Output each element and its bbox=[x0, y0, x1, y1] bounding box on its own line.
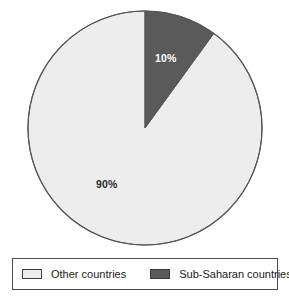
legend-swatch-sub-saharan-countries bbox=[150, 269, 170, 279]
legend-swatch-other-countries bbox=[22, 269, 42, 279]
pie-chart-figure: 10% 90% Other countries Sub-Saharan coun… bbox=[0, 0, 289, 296]
pie-plot-area: 10% 90% bbox=[0, 0, 289, 250]
legend-label-other-countries: Other countries bbox=[51, 268, 126, 280]
pie-slices bbox=[28, 11, 262, 245]
legend-label-sub-saharan-countries: Sub-Saharan countries bbox=[179, 268, 289, 280]
chart-legend: Other countries Sub-Saharan countries bbox=[12, 258, 278, 290]
legend-item-sub-saharan-countries[interactable]: Sub-Saharan countries bbox=[150, 259, 289, 289]
pie-svg bbox=[0, 0, 289, 250]
legend-item-other-countries[interactable]: Other countries bbox=[22, 259, 126, 289]
